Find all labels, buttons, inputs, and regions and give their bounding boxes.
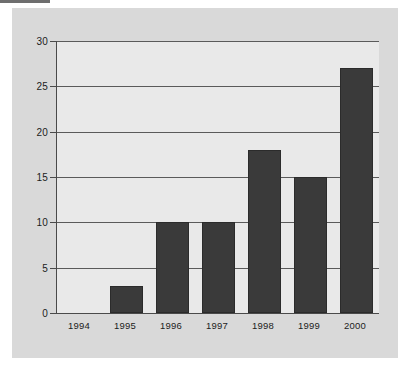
x-tick-label-1994: 1994 xyxy=(68,320,90,331)
y-tick-label-20: 20 xyxy=(36,126,48,137)
y-tick-mark-15 xyxy=(50,177,56,178)
gridline-15 xyxy=(57,177,379,178)
scan-edge-artifact xyxy=(0,0,50,3)
bar-1997 xyxy=(202,222,235,313)
bar-1998 xyxy=(248,150,281,313)
y-tick-label-10: 10 xyxy=(36,217,48,228)
y-tick-mark-5 xyxy=(50,268,56,269)
y-tick-mark-30 xyxy=(50,41,56,42)
x-tick-label-1995: 1995 xyxy=(114,320,136,331)
y-tick-label-15: 15 xyxy=(36,172,48,183)
y-tick-mark-20 xyxy=(50,132,56,133)
gridline-25 xyxy=(57,86,379,87)
y-tick-label-5: 5 xyxy=(42,262,48,273)
bar-2000 xyxy=(340,68,373,313)
x-tick-label-1998: 1998 xyxy=(252,320,274,331)
x-tick-label-1996: 1996 xyxy=(160,320,182,331)
x-tick-label-2000: 2000 xyxy=(344,320,366,331)
bar-1996 xyxy=(156,222,189,313)
gridline-20 xyxy=(57,132,379,133)
x-axis: 1994199519961997199819992000 xyxy=(12,320,398,340)
y-tick-label-25: 25 xyxy=(36,81,48,92)
x-tick-label-1999: 1999 xyxy=(298,320,320,331)
bar-1995 xyxy=(110,286,143,313)
y-axis: 051015202530 xyxy=(12,8,48,358)
chart-panel: 051015202530 199419951996199719981999200… xyxy=(12,8,398,358)
y-tick-label-0: 0 xyxy=(42,308,48,319)
bar-chart: 051015202530 199419951996199719981999200… xyxy=(12,8,398,358)
y-tick-label-30: 30 xyxy=(36,36,48,47)
y-tick-mark-0 xyxy=(50,313,56,314)
y-tick-mark-25 xyxy=(50,86,56,87)
y-tick-mark-10 xyxy=(50,222,56,223)
bar-1999 xyxy=(294,177,327,313)
gridline-30 xyxy=(57,41,379,42)
x-tick-label-1997: 1997 xyxy=(206,320,228,331)
plot-area xyxy=(56,41,379,314)
